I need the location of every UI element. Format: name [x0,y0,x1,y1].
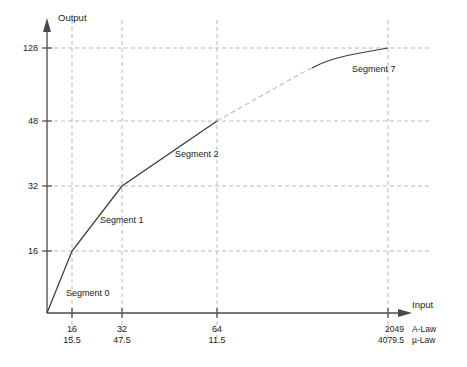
companding-curve-chart: Output Input 128 48 32 16 16 32 64 2049 … [0,0,467,367]
x-axis-arrowhead [398,309,412,317]
annotation-segment-2: Segment 2 [175,149,219,159]
chart-canvas [0,0,467,367]
annotation-segment-1: Segment 1 [100,215,144,225]
y-axis-title: Output [58,12,87,23]
x-tick-label-64-alaw: 64 [197,324,237,334]
law-row-label-mu-law: µ-Law [412,335,435,346]
y-tick-label-48: 48 [8,116,38,126]
x-tick-label-4079-5-mulaw: 4079.5 [358,335,404,346]
y-axis-arrowhead [43,18,51,32]
vertical-gridlines [72,20,388,340]
y-tick-label-128: 128 [8,43,38,53]
annotation-segment-0: Segment 0 [66,288,110,298]
law-row-label-a-law: A-Law [412,324,436,335]
x-tick-label-32-alaw: 32 [102,324,142,334]
annotation-segment-7: Segment 7 [352,64,396,74]
x-tick-label-2049-alaw: 2049 [358,324,404,335]
x-tick-label-11-5-mulaw: 11.5 [197,335,237,345]
curve-dashed-middle [217,68,312,121]
y-tick-label-16: 16 [8,246,38,256]
axes [47,28,402,313]
y-tick-label-32: 32 [8,181,38,191]
x-tick-label-16-alaw: 16 [52,324,92,334]
x-tick-label-15-5-mulaw: 15.5 [52,335,92,345]
x-tick-label-47-5-mulaw: 47.5 [102,335,142,345]
x-axis-title: Input [412,299,433,310]
